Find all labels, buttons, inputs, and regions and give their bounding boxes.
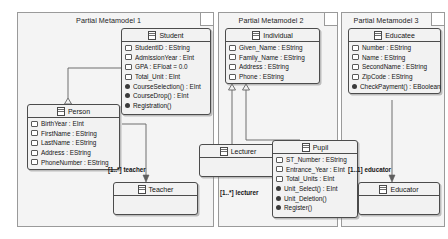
feature-label: AdmissionYear : EInt bbox=[135, 54, 194, 61]
class-name-student: Student bbox=[159, 32, 183, 39]
class-icon bbox=[148, 31, 156, 40]
attribute-icon bbox=[352, 74, 359, 80]
feature-label: CourseDrop() : EInt bbox=[133, 92, 188, 99]
attribute-icon bbox=[229, 74, 236, 80]
feature-row: CheckPayment() : EBoolean bbox=[349, 81, 440, 91]
feature-label: ZipCode : EString bbox=[362, 73, 412, 80]
feature-row: Registration() bbox=[122, 101, 210, 111]
class-name-teacher: Teacher bbox=[149, 186, 174, 193]
attribute-icon bbox=[229, 64, 236, 70]
class-icon bbox=[138, 185, 146, 194]
feature-label: GPA : EFloat = 0.0 bbox=[135, 63, 188, 70]
attribute-icon bbox=[276, 176, 283, 182]
class-name-educator: Educator bbox=[390, 186, 418, 193]
feature-label: Address : EString bbox=[239, 63, 289, 70]
class-box-educatee[interactable]: Educatee Number : EString Name : EString… bbox=[348, 28, 441, 94]
class-header-person: Person bbox=[28, 105, 119, 118]
attribute-icon bbox=[31, 130, 38, 136]
class-features-lecturer bbox=[200, 158, 276, 160]
attribute-icon bbox=[31, 159, 38, 165]
feature-label: Register() bbox=[284, 204, 312, 211]
class-name-educatee: Educatee bbox=[385, 32, 415, 39]
class-box-person[interactable]: Person BirthYear : EInt FirstName : EStr… bbox=[27, 104, 120, 170]
class-header-teacher: Teacher bbox=[114, 183, 197, 196]
class-box-educator[interactable]: Educator bbox=[358, 182, 440, 215]
attribute-icon bbox=[229, 45, 236, 51]
feature-row: BirthYear : EInt bbox=[28, 119, 119, 129]
class-header-pupil: Pupil bbox=[273, 141, 357, 154]
class-header-lecturer: Lecturer bbox=[200, 145, 276, 158]
feature-row: PhoneNumber : EString bbox=[28, 157, 119, 167]
feature-row: Family_Name : EString bbox=[226, 53, 319, 63]
feature-label: Phone : EString bbox=[239, 73, 284, 80]
feature-row: Unit_Select() : EInt bbox=[273, 184, 357, 194]
class-icon bbox=[302, 143, 310, 152]
feature-row: AdmissionYear : EInt bbox=[122, 53, 210, 63]
class-icon bbox=[379, 185, 387, 194]
feature-label: Address : EString bbox=[41, 149, 91, 156]
feature-row: Phone : EString bbox=[226, 72, 319, 82]
feature-row: GPA : EFloat = 0.0 bbox=[122, 62, 210, 72]
class-name-lecturer: Lecturer bbox=[231, 148, 257, 155]
feature-label: FirstName : EString bbox=[41, 130, 97, 137]
class-box-lecturer[interactable]: Lecturer bbox=[199, 144, 277, 177]
feature-label: CheckPayment() : EBoolean bbox=[360, 83, 441, 90]
attribute-icon bbox=[31, 140, 38, 146]
class-name-person: Person bbox=[68, 108, 90, 115]
feature-label: Name : EString bbox=[362, 54, 405, 61]
feature-row: ZipCode : EString bbox=[349, 72, 440, 82]
class-name-individual: Individual bbox=[263, 32, 293, 39]
class-icon bbox=[252, 31, 260, 40]
class-box-student[interactable]: Student StudentID : EString AdmissionYea… bbox=[121, 28, 211, 115]
feature-row: FirstName : EString bbox=[28, 129, 119, 139]
feature-label: Total_Units : EInt bbox=[286, 175, 334, 182]
feature-label: Entrance_Year : EInt bbox=[286, 166, 345, 173]
attribute-icon bbox=[125, 64, 132, 70]
feature-label: CourseSelection() : EInt bbox=[133, 83, 201, 90]
feature-label: Family_Name : EString bbox=[239, 54, 305, 61]
feature-label: ST_Number : EString bbox=[286, 156, 347, 163]
edge-pupil-to-individual bbox=[246, 89, 300, 140]
class-features-educator bbox=[359, 196, 439, 198]
feature-row: Total_Units : EInt bbox=[273, 174, 357, 184]
operation-icon bbox=[276, 186, 281, 191]
edge-student-to-person bbox=[68, 68, 122, 98]
class-box-pupil[interactable]: Pupil ST_Number : EString Entrance_Year … bbox=[272, 140, 358, 218]
class-features-student: StudentID : EString AdmissionYear : EInt… bbox=[122, 42, 210, 111]
feature-row: Address : EString bbox=[226, 62, 319, 72]
operation-icon bbox=[125, 93, 130, 98]
attribute-icon bbox=[276, 166, 283, 172]
class-features-teacher bbox=[114, 196, 197, 198]
feature-row: Register() bbox=[273, 203, 357, 213]
attribute-icon bbox=[352, 54, 359, 60]
feature-row: SecondName : EString bbox=[349, 62, 440, 72]
attribute-icon bbox=[125, 45, 132, 51]
feature-label: Number : EString bbox=[362, 44, 411, 51]
attribute-icon bbox=[229, 54, 236, 60]
feature-row: Address : EString bbox=[28, 148, 119, 158]
feature-row: LastName : EString bbox=[28, 138, 119, 148]
class-box-teacher[interactable]: Teacher bbox=[113, 182, 198, 215]
class-icon bbox=[57, 107, 65, 116]
feature-row: CourseDrop() : EInt bbox=[122, 91, 210, 101]
class-header-individual: Individual bbox=[226, 29, 319, 42]
feature-row: StudentID : EString bbox=[122, 43, 210, 53]
feature-row: Entrance_Year : EInt bbox=[273, 165, 357, 175]
feature-row: Given_Name : EString bbox=[226, 43, 319, 53]
feature-label: PhoneNumber : EString bbox=[41, 159, 109, 166]
class-header-student: Student bbox=[122, 29, 210, 42]
diagram-canvas: Partial Metamodel 1 Partial Metamodel 2 … bbox=[0, 0, 448, 239]
operation-icon bbox=[276, 196, 281, 201]
class-features-individual: Given_Name : EString Family_Name : EStri… bbox=[226, 42, 319, 82]
attribute-icon bbox=[352, 45, 359, 51]
feature-label: StudentID : EString bbox=[135, 44, 190, 51]
operation-icon bbox=[125, 103, 130, 108]
class-features-person: BirthYear : EInt FirstName : EString Las… bbox=[28, 118, 119, 168]
attribute-icon bbox=[125, 74, 132, 80]
class-features-educatee: Number : EString Name : EString SecondNa… bbox=[349, 42, 440, 92]
association-arrowhead-teacher bbox=[143, 175, 149, 182]
class-box-individual[interactable]: Individual Given_Name : EString Family_N… bbox=[225, 28, 320, 84]
association-arrowhead-educator bbox=[389, 175, 395, 182]
feature-label: Registration() bbox=[133, 102, 171, 109]
feature-label: LastName : EString bbox=[41, 139, 96, 146]
